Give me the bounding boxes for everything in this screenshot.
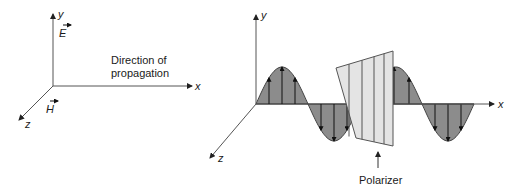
left-z-axis-label: z xyxy=(24,118,31,130)
right-z-axis xyxy=(210,104,256,158)
right-x-axis-label: x xyxy=(497,98,504,110)
e-field-label: E xyxy=(59,27,67,39)
propagation-caption-line2: propagation xyxy=(111,67,169,79)
right-z-axis-label: z xyxy=(217,152,224,164)
right-y-axis-label: y xyxy=(260,9,268,21)
h-field-label: H xyxy=(46,103,54,115)
left-x-axis-label: x xyxy=(194,80,201,92)
left-coordinate-system: y x z E H Direction of propagation xyxy=(19,8,201,130)
right-coordinate-system: y x z Polarizer xyxy=(210,9,504,186)
left-y-axis-label: y xyxy=(57,8,65,20)
polarizer-label: Polarizer xyxy=(359,174,403,186)
propagation-caption-line1: Direction of xyxy=(111,54,168,66)
diagram-canvas: y x z E H Direction of propagation y x z… xyxy=(0,0,515,187)
